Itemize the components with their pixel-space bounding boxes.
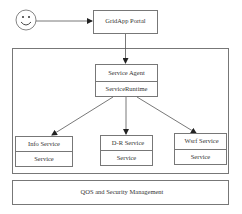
info-service-box: Info Service Service <box>16 137 73 167</box>
wsrf-service-label: Wsrf Service <box>184 137 218 144</box>
architecture-diagram: GridApp Portal Service Agent ServiceRunt… <box>0 0 242 214</box>
info-service-sub-label: Service <box>34 155 54 162</box>
service-runtime-label: ServiceRuntime <box>106 85 148 92</box>
qos-security-box: QOS and Security Management <box>13 181 229 205</box>
dr-service-sub-label: Service <box>117 154 137 161</box>
dr-service-label: D-R Service <box>112 139 144 146</box>
portal-label: GridApp Portal <box>105 17 145 24</box>
service-agent-label: Service Agent <box>108 69 145 76</box>
dr-service-box: D-R Service Service <box>101 136 153 166</box>
service-agent-box: Service Agent ServiceRuntime <box>96 65 158 97</box>
portal-box: GridApp Portal <box>94 11 158 34</box>
smiley-face-icon <box>16 10 36 30</box>
wsrf-service-sub-label: Service <box>191 153 211 160</box>
info-service-label: Info Service <box>28 140 60 147</box>
qos-security-label: QOS and Security Management <box>81 188 164 195</box>
wsrf-service-box: Wsrf Service Service <box>175 134 227 165</box>
